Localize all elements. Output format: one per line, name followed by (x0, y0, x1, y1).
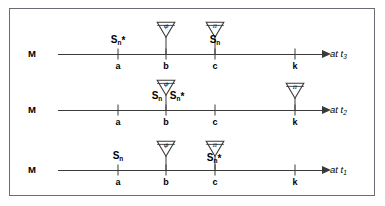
pi-token-at-k-icon: π (285, 82, 305, 99)
phi-token-at-b-icon: φ (156, 140, 176, 157)
tick-label-a: a (115, 118, 120, 127)
figure-border (9, 8, 375, 196)
s-n-s-n-star-at-b-label: Sn (152, 91, 163, 101)
tick-label-c: c (212, 62, 217, 71)
axis-line (58, 110, 322, 111)
token-stem (166, 95, 167, 110)
phi-token-at-b-icon: φ (156, 21, 176, 38)
axis-tick-a (118, 49, 119, 60)
s-n-at-a-label: Sn (113, 151, 124, 161)
s-n-star-at-b-label: Sn* (170, 91, 185, 101)
s-n-star-at-a-label: Sn* (111, 35, 126, 45)
s-n-at-c-label: Sn (210, 35, 221, 45)
axis-tick-k (295, 165, 296, 176)
axis-tick-a (118, 165, 119, 176)
axis-tick-a (118, 105, 119, 116)
tick-label-b: b (163, 62, 169, 71)
memory-label: M (28, 165, 36, 175)
memory-label: M (28, 49, 36, 59)
memory-label: M (28, 105, 36, 115)
axis-line (58, 54, 322, 55)
tick-label-k: k (292, 62, 297, 71)
token-stem (166, 156, 167, 170)
tick-label-b: b (163, 178, 169, 187)
tick-label-c: c (212, 178, 217, 187)
time-caption-1: at t3 (330, 49, 347, 59)
tick-label-k: k (292, 118, 297, 127)
time-caption-3: at t1 (330, 165, 347, 175)
tick-label-a: a (115, 62, 120, 71)
tick-label-k: k (292, 178, 297, 187)
tick-label-c: c (212, 118, 217, 127)
axis-tick-c (215, 105, 216, 116)
token-stem (295, 98, 296, 110)
tick-label-b: b (163, 118, 169, 127)
axis-line (58, 170, 322, 171)
time-caption-2: at t2 (330, 105, 347, 115)
figure-root: MabckφπSn*Snat t3MabckφπSnSn*at t2Mabckφ… (0, 0, 385, 206)
axis-tick-k (295, 49, 296, 60)
s-n-star-at-c-label: Sn* (207, 153, 222, 163)
token-stem (166, 37, 167, 54)
tick-label-a: a (115, 178, 120, 187)
